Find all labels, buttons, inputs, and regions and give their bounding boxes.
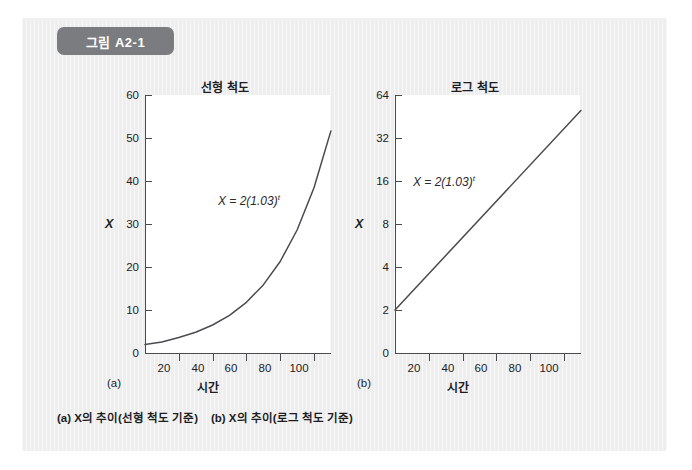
- equation-text-linear: X = 2(1.03): [218, 194, 278, 208]
- figure-number-badge: 그림 A2-1: [57, 27, 174, 55]
- equation-exponent-log: t: [473, 174, 475, 183]
- equation-exponent-linear: t: [278, 193, 280, 202]
- chart-linear-scale: 선형 척도 0 10 20 30 40 50 60 X 20 40 60 80: [105, 78, 345, 398]
- figure-caption: (a) X의 추이(선형 척도 기준) (b) X의 추이(로그 척도 기준): [57, 409, 353, 425]
- figure-number-label: 그림 A2-1: [86, 32, 145, 51]
- equation-annotation-linear: X = 2(1.03)t: [218, 193, 280, 208]
- chart-log-scale: 로그 척도 0 2 4 8 16 32 64 X 20 40 60 80 100…: [355, 78, 595, 398]
- equation-text-log: X = 2(1.03): [413, 175, 473, 189]
- figure-caption-a: (a) X의 추이(선형 척도 기준): [57, 412, 198, 424]
- figure-caption-b: (b) X의 추이(로그 척도 기준): [211, 412, 353, 424]
- data-curve-linear: [105, 78, 345, 398]
- data-curve-log: [355, 78, 595, 398]
- figure-root: 그림 A2-1 선형 척도 0 10 20 30 40 50 60 X 20 4…: [0, 0, 692, 470]
- equation-annotation-log: X = 2(1.03)t: [413, 174, 475, 189]
